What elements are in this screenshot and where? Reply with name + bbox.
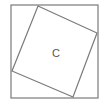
pythagorean-square-diagram: C: [0, 0, 103, 103]
area-label-c: C: [52, 47, 60, 59]
